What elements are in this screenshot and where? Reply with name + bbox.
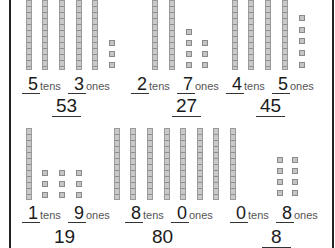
ones-label: ones [189,209,213,221]
worksheet-right-border [332,0,334,248]
one-cube [59,181,65,187]
ones-answer[interactable]: 7 [177,75,195,94]
ten-rod [197,128,203,200]
one-cube [299,38,305,44]
one-cube [277,157,283,163]
tens-answer[interactable]: 8 [125,204,143,223]
ones-answer[interactable]: 8 [276,204,294,223]
one-cube [42,192,48,198]
one-cube [59,192,65,198]
ten-rod [164,128,170,200]
ten-rod [130,128,136,200]
answer-line-4: 1tens 9ones [22,204,114,223]
one-cube [109,62,115,68]
one-cube [277,179,283,185]
tens-answer[interactable]: 5 [22,75,40,94]
number-answer-4[interactable]: 19 [54,227,75,247]
ten-rod [248,0,254,70]
ten-rod [169,0,175,70]
ten-rod [26,128,32,200]
tens-answer[interactable]: 2 [131,75,149,94]
one-cube [109,51,115,57]
ten-rod [76,0,82,70]
one-cube [76,192,82,198]
one-cube [299,62,305,68]
one-cube [109,40,115,46]
ten-rod [147,128,153,200]
ten-rod [59,0,65,70]
ones-answer[interactable]: 0 [171,204,189,223]
one-cube [76,181,82,187]
ten-rod [42,0,48,70]
ten-rod [232,0,238,70]
tens-label: tens [149,80,170,92]
tens-label: tens [143,209,164,221]
one-cube [292,168,298,174]
one-cube [202,51,208,57]
one-cube [202,40,208,46]
one-cube [277,168,283,174]
ten-rod [152,0,158,70]
number-answer-2[interactable]: 27 [172,96,201,117]
answer-line-1: 5tens 3ones [22,75,114,94]
tens-label: tens [40,80,61,92]
ones-answer[interactable]: 5 [272,75,290,94]
one-cube [186,29,192,35]
ones-answer[interactable]: 9 [68,204,86,223]
number-answer-6[interactable]: 8 [262,227,291,248]
one-cube [76,170,82,176]
one-cube [277,190,283,196]
tens-answer[interactable]: 1 [22,204,40,223]
one-cube [186,62,192,68]
tens-label: tens [244,80,265,92]
one-cube [292,157,298,163]
one-cube [299,15,305,21]
answer-line-5: 8tens 0ones [125,204,217,223]
answer-line-3: 4tens 5ones [226,75,318,94]
ten-rod [180,128,186,200]
number-answer-5[interactable]: 80 [152,227,173,247]
one-cube [186,40,192,46]
ten-rod [114,128,120,200]
ones-label: ones [86,209,110,221]
one-cube [292,190,298,196]
answer-line-2: 2tens 7ones [131,75,223,94]
number-answer-3[interactable]: 45 [256,96,285,117]
one-cube [299,50,305,56]
one-cube [186,51,192,57]
one-cube [299,27,305,33]
ones-label: ones [290,80,314,92]
one-cube [42,170,48,176]
one-cube [59,170,65,176]
ones-answer[interactable]: 3 [68,75,86,94]
one-cube [202,62,208,68]
ten-rod [265,0,271,70]
tens-answer[interactable]: 4 [226,75,244,94]
tens-answer[interactable]: 0 [230,204,248,223]
ten-rod [282,0,288,70]
tens-label: tens [40,209,61,221]
ten-rod [26,0,32,70]
ones-label: ones [195,80,219,92]
answer-line-6: 0tens 8ones [230,204,322,223]
ten-rod [213,128,219,200]
one-cube [292,179,298,185]
one-cube [42,181,48,187]
tens-label: tens [248,209,269,221]
ones-label: ones [86,80,110,92]
ten-rod [230,128,236,200]
number-answer-1[interactable]: 53 [52,96,81,117]
ones-label: ones [294,209,318,221]
ten-rod [92,0,98,70]
